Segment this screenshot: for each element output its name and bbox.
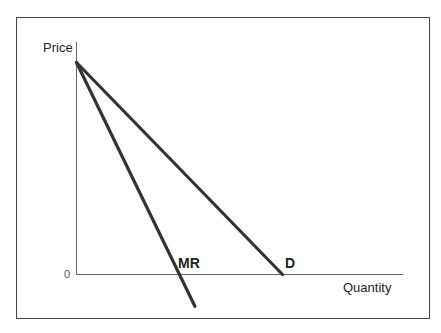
origin-label: 0 — [64, 268, 70, 280]
y-axis-label: Price — [43, 40, 73, 55]
x-axis-label: Quantity — [343, 280, 391, 295]
mr-curve-label: MR — [178, 255, 200, 271]
demand-curve — [77, 63, 283, 275]
demand-curve-label: D — [285, 255, 295, 271]
